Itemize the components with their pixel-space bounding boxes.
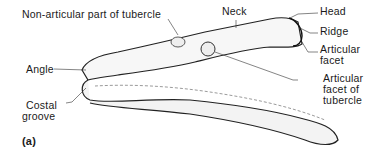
label-tubercle-facet-line3: tubercle <box>323 95 362 106</box>
label-ridge: Ridge <box>320 26 348 37</box>
label-costal-groove-line2: groove <box>22 111 55 122</box>
label-articular-facet-line2: facet <box>320 55 344 66</box>
label-head: Head <box>320 6 346 17</box>
panel-label: (a) <box>22 136 36 147</box>
label-non-articular-tubercle: Non-articular part of tubercle <box>22 9 161 20</box>
rib-diagram: Non-articular part of tubercle Neck Head… <box>0 0 381 153</box>
label-neck: Neck <box>222 6 247 17</box>
label-angle: Angle <box>26 64 54 75</box>
